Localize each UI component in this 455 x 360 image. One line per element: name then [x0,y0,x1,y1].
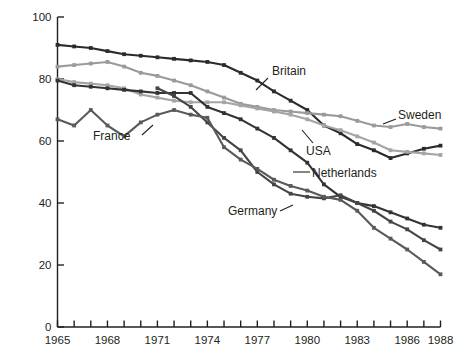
series-label-britain: Britain [272,64,306,78]
svg-text:80: 80 [39,73,52,85]
svg-text:1980: 1980 [294,334,320,346]
axis-tick-labels: 0204060801001965196819711974197719801983… [32,11,453,345]
series-label-usa: USA [306,144,331,158]
series-label-sweden: Sweden [398,108,441,122]
svg-text:1971: 1971 [145,334,171,346]
svg-text:1977: 1977 [245,334,271,346]
svg-text:100: 100 [32,11,51,23]
svg-text:1988: 1988 [428,334,454,346]
svg-text:60: 60 [39,135,52,147]
svg-text:20: 20 [39,259,52,271]
svg-text:40: 40 [39,197,52,209]
svg-text:0: 0 [45,321,51,333]
svg-text:1965: 1965 [45,334,71,346]
svg-text:1974: 1974 [195,334,221,346]
series-label-netherlands: Netherlands [312,166,377,180]
line-chart-plot: 0204060801001965196819711974197719801983… [0,0,455,360]
svg-text:1968: 1968 [95,334,121,346]
svg-text:1983: 1983 [344,334,370,346]
data-series-group [56,43,443,276]
series-label-france: France [93,129,130,143]
chart-figure: Percentage of men aged 60-64 in labor fo… [0,0,455,360]
series-label-germany: Germany [228,204,277,218]
svg-text:1986: 1986 [394,334,420,346]
